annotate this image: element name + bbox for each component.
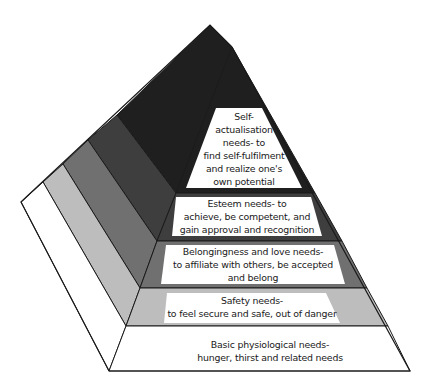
belonging-line-3: and belong xyxy=(161,271,345,284)
esteem-line-1: Esteem needs- to xyxy=(172,197,322,210)
safety-line-1: Safety needs- xyxy=(164,294,340,307)
label-safety: Safety needs- to feel secure and safe, o… xyxy=(164,294,340,320)
esteem-line-2: achieve, be competent, and xyxy=(172,210,322,223)
label-physiological: Basic physiological needs- hunger, thirs… xyxy=(180,338,360,364)
esteem-line-3: gain approval and recognition xyxy=(172,223,322,236)
self-actualisation-line-3: needs- to xyxy=(186,136,302,149)
safety-line-2: to feel secure and safe, out of danger xyxy=(164,307,340,320)
self-actualisation-line-4: find self-fulfilment xyxy=(186,149,302,162)
physiological-line-1: Basic physiological needs- xyxy=(180,338,360,351)
self-actualisation-line-1: Self- xyxy=(186,110,302,123)
belonging-line-1: Belongingness and love needs- xyxy=(161,245,345,258)
maslow-pyramid-diagram xyxy=(0,0,428,391)
label-esteem: Esteem needs- to achieve, be competent, … xyxy=(172,197,322,236)
label-self-actualisation: Self- actualisation needs- to find self-… xyxy=(186,110,302,188)
belonging-line-2: to affiliate with others, be accepted xyxy=(161,258,345,271)
self-actualisation-line-5: and realize one's xyxy=(186,162,302,175)
self-actualisation-line-2: actualisation xyxy=(186,123,302,136)
self-actualisation-line-6: own potential xyxy=(186,175,302,188)
physiological-line-2: hunger, thirst and related needs xyxy=(180,351,360,364)
label-belonging: Belongingness and love needs- to affilia… xyxy=(161,245,345,284)
